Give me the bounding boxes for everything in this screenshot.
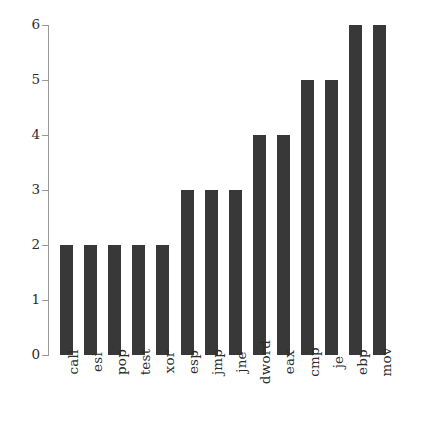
x-axis-tick-label: dword [259, 340, 273, 384]
bar [132, 245, 145, 355]
y-axis-tick-label: 2 [18, 238, 40, 252]
y-axis-tick-mark [42, 190, 48, 191]
x-axis-tick-label: jmp [211, 349, 225, 375]
bar [205, 190, 218, 355]
x-axis-tick-label: test [139, 349, 153, 376]
bar [181, 190, 194, 355]
bar [301, 80, 314, 355]
x-axis-tick-label: esi [91, 352, 105, 372]
y-axis-tick-mark [42, 80, 48, 81]
y-axis-tick-mark [42, 355, 48, 356]
bar [325, 80, 338, 355]
y-axis-tick-label: 4 [18, 128, 40, 142]
bar [60, 245, 73, 355]
bar [277, 135, 290, 355]
x-axis-tick-label-wrap: call [60, 362, 73, 432]
bar [108, 245, 121, 355]
x-axis-tick-label-wrap: ebp [349, 362, 362, 432]
bar [229, 190, 242, 355]
bar [84, 245, 97, 355]
x-axis-tick-label: jne [235, 351, 249, 372]
x-axis-tick-label-wrap: esi [84, 362, 97, 432]
bar [156, 245, 169, 355]
x-axis-tick-label-wrap: esp [181, 362, 194, 432]
x-axis-tick-label-wrap: dword [253, 362, 266, 432]
x-axis-tick-label: mov [380, 347, 394, 376]
x-axis-tick-label: call [67, 349, 81, 374]
x-axis-tick-label-wrap: xor [156, 362, 169, 432]
x-axis-tick-label: pop [115, 349, 129, 375]
x-axis-tick-label: cmp [308, 347, 322, 377]
x-axis-tick-label-wrap: pop [108, 362, 121, 432]
x-axis-tick-label: esp [187, 350, 201, 374]
y-axis-tick-label: 0 [18, 348, 40, 362]
x-axis-tick-label-wrap: jne [229, 362, 242, 432]
x-axis-tick-label-wrap: mov [373, 362, 386, 432]
x-axis-tick-label-wrap: je [325, 362, 338, 432]
y-axis-tick-label: 6 [18, 18, 40, 32]
x-axis-tick-label: ebp [356, 349, 370, 375]
x-axis-tick-label-wrap: test [132, 362, 145, 432]
y-axis-tick-mark [42, 25, 48, 26]
bar [373, 25, 386, 355]
x-axis-tick-label-wrap: eax [277, 362, 290, 432]
bar [349, 25, 362, 355]
y-axis-tick-mark [42, 300, 48, 301]
x-axis-tick-label: je [332, 356, 346, 369]
y-axis-tick-mark [42, 245, 48, 246]
y-axis-tick-label: 1 [18, 293, 40, 307]
y-axis-tick-label: 5 [18, 73, 40, 87]
x-axis-tick-label-wrap: jmp [205, 362, 218, 432]
x-axis-tick-label-wrap: cmp [301, 362, 314, 432]
y-axis-tick-mark [42, 135, 48, 136]
x-axis-tick-label: eax [283, 350, 297, 374]
bar [253, 135, 266, 355]
x-axis-tick-label: xor [163, 351, 177, 374]
y-axis-tick-label: 3 [18, 183, 40, 197]
bar-chart-figure: 0123456callesipoptestxorespjmpjnedwordea… [0, 0, 430, 432]
